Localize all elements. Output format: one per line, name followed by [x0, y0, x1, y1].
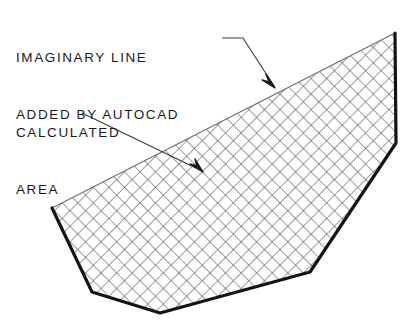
calculated-area-label: CALCULATED AREA	[16, 85, 120, 237]
imaginary-leader-line	[222, 38, 274, 86]
cad-drawing-canvas: IMAGINARY LINE ADDED BY AUTOCAD CALCULAT…	[0, 0, 409, 327]
calculated-area-label-row1: CALCULATED	[16, 123, 120, 142]
imaginary-line-label-row1: IMAGINARY LINE	[16, 48, 179, 67]
imaginary-leader-arrowhead-icon	[262, 74, 275, 88]
calculated-area-label-row2: AREA	[16, 180, 120, 199]
